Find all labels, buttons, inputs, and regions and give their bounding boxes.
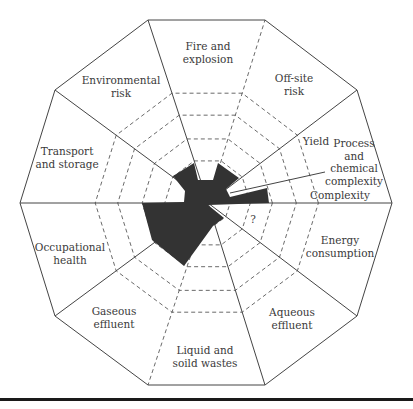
label-liquid-and-soild-wastes: Liquid andsoild wastes bbox=[173, 344, 238, 369]
sublabel-complexity: Complexity bbox=[310, 189, 370, 201]
label-fire-and-explosion: Fire andexplosion bbox=[183, 40, 234, 65]
spoke-9 bbox=[208, 203, 357, 316]
label-gaseous-effluent: Gaseouseffluent bbox=[92, 305, 137, 330]
label-process-complexity: Processandchemicalcomplexity bbox=[325, 137, 383, 187]
label-energy-consumption: Energyconsumption bbox=[306, 234, 375, 259]
label-aqueous-effluent: Aqueouseffluent bbox=[268, 306, 315, 331]
sublabel-yield: Yield bbox=[302, 135, 330, 147]
bottom-rule bbox=[0, 398, 413, 401]
label-occupational-health: Occupationalhealth bbox=[35, 241, 106, 266]
label-environmental-risk: Environmentalrisk bbox=[82, 74, 161, 99]
label-off-site-risk: Off-siterisk bbox=[275, 72, 313, 97]
label-transport-and-storage: Transportand storage bbox=[35, 145, 98, 170]
sublabel-unknown: ? bbox=[250, 213, 256, 225]
hazard-radar-diagram: Fire andexplosionOff-siteriskEnvironment… bbox=[0, 0, 413, 409]
